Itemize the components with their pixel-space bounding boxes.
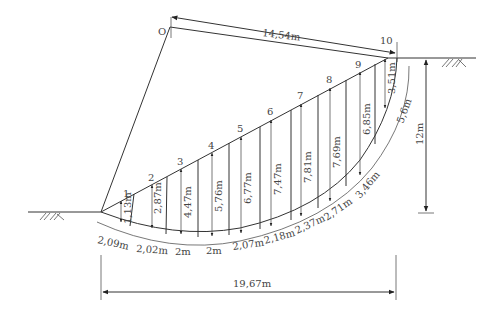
base-label: 5,6m — [395, 97, 414, 125]
base-label: 2m — [206, 245, 222, 256]
ground-hatch-left-icon — [40, 213, 64, 220]
height-label: 6,77m — [242, 172, 253, 204]
slice-number: 2 — [148, 172, 154, 183]
radius-label: 14,54m — [262, 27, 302, 43]
height-label: 2,87m — [152, 182, 163, 214]
height-label: 7,81m — [302, 151, 313, 183]
ground-left — [28, 212, 101, 220]
height-label: 12m — [414, 122, 425, 145]
slice-number: 5 — [237, 123, 243, 134]
center-label: O — [158, 26, 166, 37]
slice-number: 9 — [355, 59, 361, 70]
base-label: 2,37m — [293, 212, 327, 236]
slice-number: 8 — [326, 74, 332, 85]
slope-stability-diagram: O 14,54m 1 2 3 4 5 6 7 8 9 — [0, 0, 498, 317]
height-label: 7,69m — [331, 136, 342, 168]
base-label: 2m — [175, 246, 191, 257]
slip-dimension-arc — [97, 66, 409, 245]
slice-number: 7 — [297, 90, 303, 101]
slip-surface — [101, 58, 397, 232]
ground-hatch-right-icon — [442, 59, 466, 67]
slice-number: 6 — [267, 106, 273, 117]
base-label: 2,07m — [232, 237, 265, 252]
height-label: 4,47m — [182, 186, 193, 218]
slice-number: 3 — [177, 156, 183, 167]
slice-number: 10 — [380, 35, 393, 46]
height-label: 3,51m — [386, 62, 397, 94]
ground-right — [388, 58, 476, 67]
base-label: 2,71m — [322, 195, 355, 223]
height-label: 7,47m — [272, 163, 283, 195]
height-label: 1,13m — [122, 192, 133, 224]
height-label: 5,76m — [213, 180, 224, 212]
base-label: 2,02m — [136, 243, 169, 256]
slice-numbers: 1 2 3 4 5 6 7 8 9 10 — [123, 35, 393, 199]
slice-number: 4 — [208, 140, 214, 151]
base-label: 2,18m — [263, 227, 297, 246]
span-label: 19,67m — [233, 278, 272, 289]
height-label: 6,85m — [361, 103, 372, 135]
base-label: 2,09m — [97, 234, 131, 251]
